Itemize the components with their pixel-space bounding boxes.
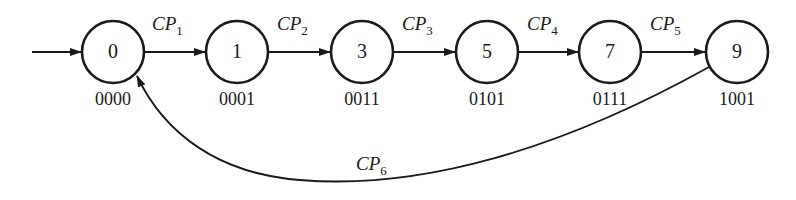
transition-label-cp5: CP5: [650, 13, 681, 38]
state-9: 9 1001: [706, 21, 768, 109]
state-code: 0011: [344, 89, 379, 109]
state-code: 0000: [95, 89, 131, 109]
state-code: 0111: [593, 89, 628, 109]
transition-label-cp2: CP2: [277, 13, 308, 38]
state-5: 5 0101: [456, 21, 518, 109]
state-3: 3 0011: [331, 21, 393, 109]
transition-9-to-0: [137, 67, 709, 182]
state-1: 1 0001: [206, 21, 268, 109]
state-label: 7: [605, 40, 615, 62]
transition-label-cp3: CP3: [402, 13, 433, 38]
transition-label-cp1: CP1: [152, 13, 183, 38]
transition-label-cp6: CP6: [356, 153, 387, 178]
state-label: 0: [108, 40, 118, 62]
state-label: 9: [732, 40, 742, 62]
state-code: 1001: [719, 89, 755, 109]
state-0: 0 0000: [82, 21, 144, 109]
state-7: 7 0111: [579, 21, 641, 109]
state-code: 0101: [469, 89, 505, 109]
state-label: 5: [482, 40, 492, 62]
state-code: 0001: [219, 89, 255, 109]
transition-label-cp4: CP4: [527, 13, 558, 38]
state-diagram: CP1 CP2 CP3 CP4 CP5 CP6 0 0000 1 0001 3 …: [0, 0, 796, 200]
state-label: 1: [232, 40, 242, 62]
state-label: 3: [357, 40, 367, 62]
